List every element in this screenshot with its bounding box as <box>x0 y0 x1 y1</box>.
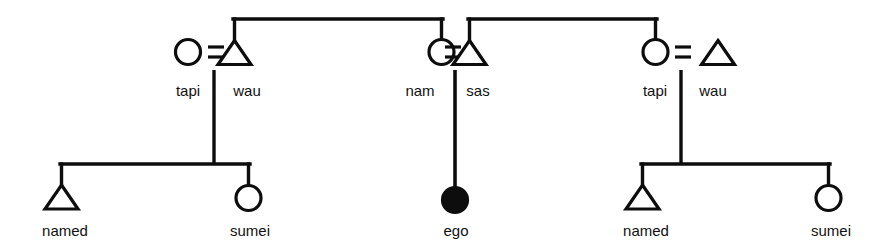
label-sas: sas <box>466 83 489 98</box>
label-tapi-left: tapi <box>176 83 200 98</box>
symbol-male-sas <box>453 41 486 65</box>
label-nam: nam <box>405 83 434 98</box>
sibship-right <box>641 164 830 187</box>
symbol-male-named-right <box>626 185 659 209</box>
label-named-left: named <box>42 223 88 238</box>
symbol-male-wau-left <box>218 41 251 65</box>
kinship-diagram: tapi wau nam sas tapi wau named sumei eg… <box>0 0 890 249</box>
symbol-ego-filled-circle <box>443 188 468 213</box>
sibling-link-top-left <box>233 19 443 42</box>
symbol-female-sumei-right <box>816 186 841 211</box>
label-sumei-right: sumei <box>811 223 851 238</box>
symbol-male-named-left <box>45 185 78 209</box>
label-wau-right: wau <box>699 83 727 98</box>
symbol-female-nam <box>429 40 454 65</box>
couple-right <box>643 40 735 165</box>
symbol-female-tapi-left <box>176 40 201 65</box>
sibling-link-top-right <box>468 19 657 42</box>
couple-left <box>176 40 252 165</box>
label-ego: ego <box>443 223 468 238</box>
sibship-left <box>60 164 250 187</box>
marriage-sign-right <box>675 47 691 57</box>
symbol-female-sumei-left <box>236 186 261 211</box>
symbol-male-wau-right <box>702 41 735 65</box>
label-wau-left: wau <box>233 83 261 98</box>
label-sumei-left: sumei <box>230 223 270 238</box>
label-tapi-right: tapi <box>643 83 667 98</box>
kinship-diagram-canvas <box>0 0 890 249</box>
label-named-right: named <box>623 223 669 238</box>
marriage-sign-left <box>208 47 224 57</box>
couple-middle <box>429 40 486 191</box>
symbol-female-tapi-right <box>643 40 668 65</box>
